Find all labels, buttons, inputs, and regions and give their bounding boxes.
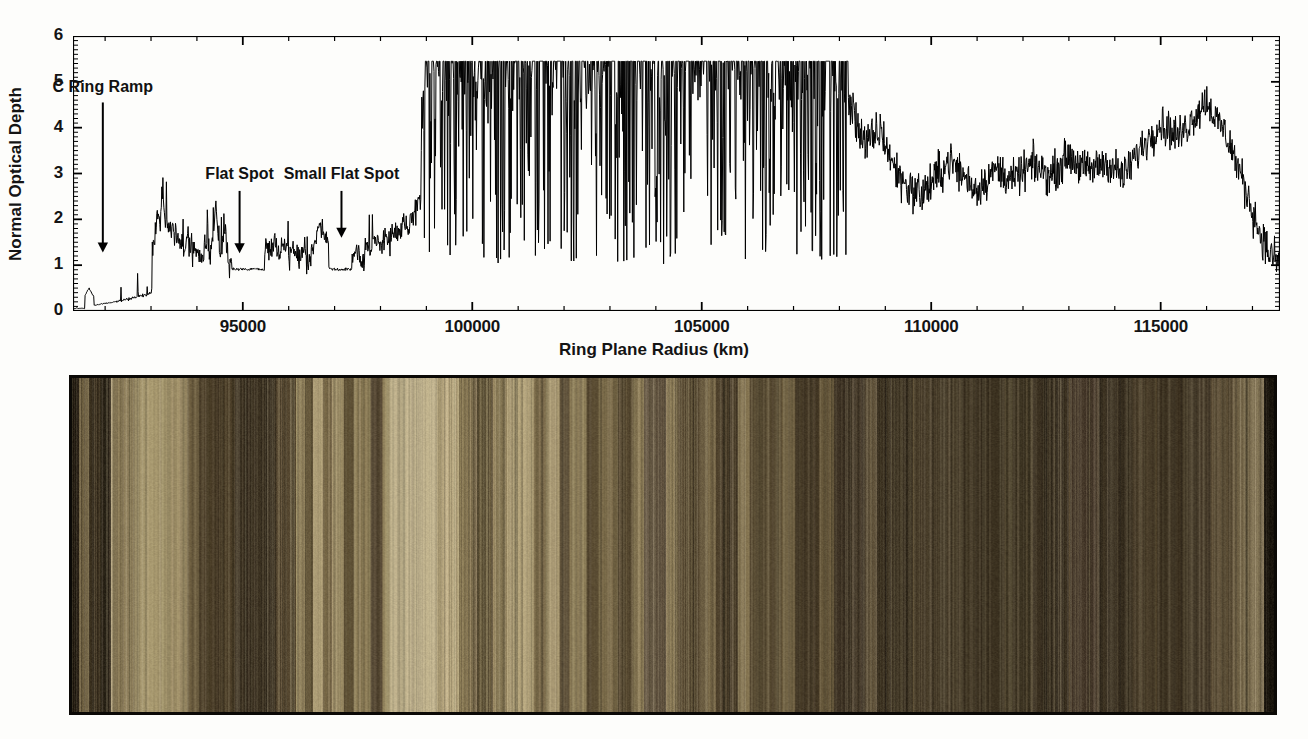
data-series-line [73, 61, 1280, 309]
y-axis-label-wrap: Normal Optical Depth [2, 36, 30, 311]
annotation-label-0: C Ring Ramp [53, 78, 153, 96]
y-tick-label-4: 4 [54, 117, 63, 137]
y-tick-label-1: 1 [54, 254, 63, 274]
figure-root: Normal Optical Depth C Ring RampFlat Spo… [0, 0, 1308, 739]
ring-color-image-strip [69, 375, 1277, 715]
x-tick-label-110000: 110000 [904, 317, 959, 337]
annotation-label-2: Small Flat Spot [284, 165, 400, 183]
ring-strip-canvas [72, 378, 1274, 712]
y-tick-label-5: 5 [54, 71, 63, 91]
y-tick-label-0: 0 [54, 300, 63, 320]
y-tick-label-2: 2 [54, 208, 63, 228]
x-tick-label-105000: 105000 [674, 317, 730, 337]
x-tick-label-95000: 95000 [220, 317, 266, 337]
annotation-label-1: Flat Spot [205, 165, 273, 183]
x-axis-label: Ring Plane Radius (km) [0, 340, 1308, 360]
y-tick-label-3: 3 [54, 163, 63, 183]
x-tick-label-100000: 100000 [445, 317, 501, 337]
x-tick-label-115000: 115000 [1133, 317, 1188, 337]
y-tick-label-6: 6 [54, 25, 63, 45]
y-axis-label: Normal Optical Depth [6, 87, 26, 261]
